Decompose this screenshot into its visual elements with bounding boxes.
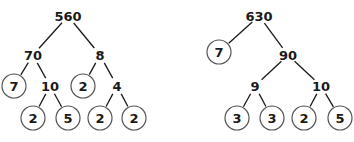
node-label: 5 — [335, 111, 344, 126]
tree-edge — [37, 63, 45, 78]
tree-edge — [326, 94, 334, 107]
node-label: 70 — [24, 48, 42, 63]
tree-edge — [295, 61, 315, 80]
node-label: 10 — [41, 79, 59, 94]
node-label: 5 — [63, 111, 72, 126]
prime-factor-node: 2 — [292, 106, 316, 130]
node-label: 2 — [95, 111, 104, 126]
tree-edge — [39, 94, 46, 107]
composite-node: 8 — [95, 48, 104, 63]
tree-edge — [104, 63, 112, 78]
composite-node: 70 — [24, 48, 42, 63]
tree-edge — [229, 22, 253, 43]
node-label: 2 — [78, 79, 87, 94]
node-label: 560 — [54, 9, 81, 24]
prime-factor-node: 3 — [225, 106, 249, 130]
node-label: 8 — [95, 48, 104, 63]
tree-edge — [21, 63, 29, 75]
tree-edge — [259, 94, 266, 107]
tree-edge — [74, 23, 95, 48]
tree-edge — [39, 23, 62, 49]
prime-factor-node: 5 — [328, 106, 352, 130]
tree-edge — [262, 61, 282, 80]
node-label: 630 — [245, 9, 272, 24]
node-label: 3 — [232, 111, 241, 126]
prime-factor-node: 5 — [56, 106, 80, 130]
node-label: 2 — [129, 111, 138, 126]
node-label: 3 — [267, 111, 276, 126]
tree-edge — [243, 94, 250, 107]
factor-trees-diagram: 560708710242522 6307909103325 — [0, 0, 354, 142]
prime-factor-node: 2 — [71, 74, 95, 98]
tree-edge — [106, 94, 113, 107]
node-label: 2 — [299, 111, 308, 126]
factor-tree-560: 560708710242522 — [2, 9, 146, 130]
tree-edge — [310, 94, 317, 107]
composite-node: 10 — [312, 79, 330, 94]
prime-factor-node: 3 — [260, 106, 284, 130]
composite-node: 4 — [112, 79, 121, 94]
composite-node: 10 — [41, 79, 59, 94]
tree-edge — [89, 63, 95, 75]
node-label: 2 — [28, 111, 37, 126]
node-label: 90 — [279, 48, 297, 63]
node-label: 7 — [214, 45, 223, 60]
prime-factor-node: 7 — [2, 74, 26, 98]
tree-edge — [54, 94, 61, 107]
composite-node: 560 — [54, 9, 81, 24]
node-label: 7 — [9, 79, 18, 94]
prime-factor-node: 7 — [207, 40, 231, 64]
composite-node: 630 — [245, 9, 272, 24]
prime-factor-node: 2 — [88, 106, 112, 130]
prime-factor-node: 2 — [21, 106, 45, 130]
factor-tree-630: 6307909103325 — [207, 9, 352, 130]
node-label: 10 — [312, 79, 330, 94]
node-label: 9 — [250, 79, 259, 94]
tree-edge — [121, 94, 128, 107]
tree-edge — [264, 23, 282, 48]
composite-node: 90 — [279, 48, 297, 63]
prime-factor-node: 2 — [122, 106, 146, 130]
composite-node: 9 — [250, 79, 259, 94]
node-label: 4 — [112, 79, 121, 94]
